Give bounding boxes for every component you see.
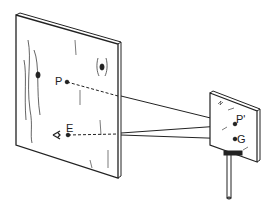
point-p [65, 80, 69, 84]
label-p: P [55, 76, 62, 87]
diagram: P E P' G [0, 0, 271, 222]
label-e: E [66, 123, 73, 134]
label-g: G [237, 134, 246, 145]
label-p-prime: P' [236, 114, 245, 125]
diagram-drawing [0, 0, 271, 222]
wooden-board [16, 13, 121, 178]
small-mirror [210, 91, 260, 199]
